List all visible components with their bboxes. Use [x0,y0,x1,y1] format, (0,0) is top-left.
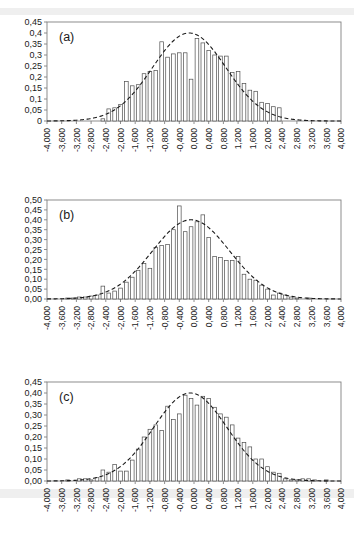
plot-frame-a [47,22,341,121]
histogram-bar [254,459,258,481]
histogram-bar [130,86,134,121]
histogram-bar [177,53,181,121]
x-axis-c: -4,000-3,600-3,200-2,800-2,400-2,000-1,6… [42,481,346,512]
y-axis-a: 0,450,40,350,30,250,20,150,10,050 [24,17,47,126]
x-tick-label: -1,600 [130,488,140,512]
x-tick-label: 1,200 [233,306,243,328]
x-tick-label: 3,600 [322,488,332,510]
y-tick-label: 0 [37,116,42,126]
histogram-bar [230,73,234,121]
x-tick-label: 0,800 [219,488,229,510]
histogram-bar [195,405,199,481]
plot-area-a: 0,450,40,350,30,250,20,150,10,050-4,000-… [0,12,354,193]
chart-svg-a: 0,450,40,350,30,250,20,150,10,050-4,000-… [0,12,354,193]
x-tick-label: 2,800 [292,128,302,150]
histogram-bar [213,256,217,299]
x-tick-label: 2,400 [277,128,287,150]
x-tick-label: -2,400 [101,306,111,330]
histogram-bar [130,460,134,481]
y-tick-label: 0,05 [24,105,42,115]
histogram-bar [225,260,229,299]
histogram-bar [201,215,205,299]
y-tick-label: 0,25 [24,245,42,255]
y-tick-label: 0,25 [24,421,42,431]
x-tick-label: 0,400 [204,306,214,328]
x-tick-label: -2,000 [116,306,126,330]
y-tick-label: 0,05 [24,284,42,294]
histogram-bar [160,42,164,121]
x-tick-label: -0,400 [175,488,185,512]
x-tick-label: -1,200 [145,306,155,330]
x-tick-label: 1,200 [233,128,243,150]
y-tick-label: 0,45 [24,17,42,27]
x-tick-label: 1,600 [248,488,258,510]
x-tick-label: 3,600 [322,128,332,150]
y-tick-label: 0,4 [29,28,42,38]
x-tick-label: 2,400 [277,488,287,510]
x-tick-label: -1,600 [130,128,140,152]
y-axis-b: 0,500,450,400,350,300,250,200,150,100,05… [24,195,47,304]
x-tick-label: 2,800 [292,306,302,328]
histogram-bar [130,277,134,299]
x-tick-label: 2,000 [263,306,273,328]
x-tick-label: -0,800 [160,488,170,512]
x-tick-label: -2,000 [116,488,126,512]
x-tick-label: 2,000 [263,128,273,150]
histogram-bar [225,56,229,121]
histogram-bar [136,449,140,481]
histogram-bar [113,291,117,299]
histogram-bar [183,395,187,481]
normal-curve-overlay [47,220,341,299]
histogram-bar [177,414,181,481]
histogram-bar [154,248,158,299]
y-tick-label: 0,35 [24,39,42,49]
x-tick-label: 0,800 [219,128,229,150]
x-axis-a: -4,000-3,600-3,200-2,800-2,400-2,000-1,6… [42,121,346,152]
histogram-bar [189,79,193,121]
histogram-bar [148,268,152,299]
chart-svg-c: 0,450,400,350,300,250,200,150,100,050,00… [0,372,354,541]
x-tick-label: -4,000 [42,306,52,330]
histogram-bar [289,297,293,299]
histogram-panel-b: 0,500,450,400,350,300,250,200,150,100,05… [0,190,354,362]
plot-frame-b [47,200,341,299]
histogram-bar [107,109,111,121]
x-tick-label: -4,000 [42,488,52,512]
plot-area-b: 0,500,450,400,350,300,250,200,150,100,05… [0,190,354,371]
histogram-bar [289,480,293,481]
y-tick-label: 0,00 [24,476,42,486]
histogram-bar [254,280,258,299]
x-tick-label: -3,600 [57,306,67,330]
histogram-bar [260,285,264,299]
x-tick-label: 2,000 [263,488,273,510]
histogram-bar [160,246,164,299]
histogram-bar [201,43,205,121]
x-tick-label: -3,200 [72,306,82,330]
histogram-bar [125,471,129,481]
histogram-bar [101,119,105,121]
histogram-bar [242,84,246,121]
histogram-bar [101,286,105,299]
histogram-bar [136,270,140,299]
x-axis-b: -4,000-3,600-3,200-2,800-2,400-2,000-1,6… [42,299,346,330]
histogram-bar [142,74,146,121]
histogram-bar [230,260,234,299]
x-tick-label: -0,400 [175,128,185,152]
histogram-bar [172,54,176,121]
y-axis-c: 0,450,400,350,300,250,200,150,100,050,00 [24,377,47,486]
x-tick-label: 3,200 [307,306,317,328]
histogram-bar [166,406,170,481]
x-tick-label: -0,800 [160,306,170,330]
histogram-bar [201,396,205,481]
x-tick-label: -4,000 [42,128,52,152]
histogram-bar [283,479,287,481]
histogram-bar [189,399,193,482]
histogram-bar [166,57,170,121]
histogram-panel-c: 0,450,400,350,300,250,200,150,100,050,00… [0,372,354,538]
y-tick-label: 0,1 [29,94,42,104]
normal-curve-overlay [47,393,341,481]
x-tick-label: 4,000 [336,128,346,150]
histogram-bar [277,108,281,121]
histogram-bar [254,91,258,121]
histogram-bar [142,263,146,299]
